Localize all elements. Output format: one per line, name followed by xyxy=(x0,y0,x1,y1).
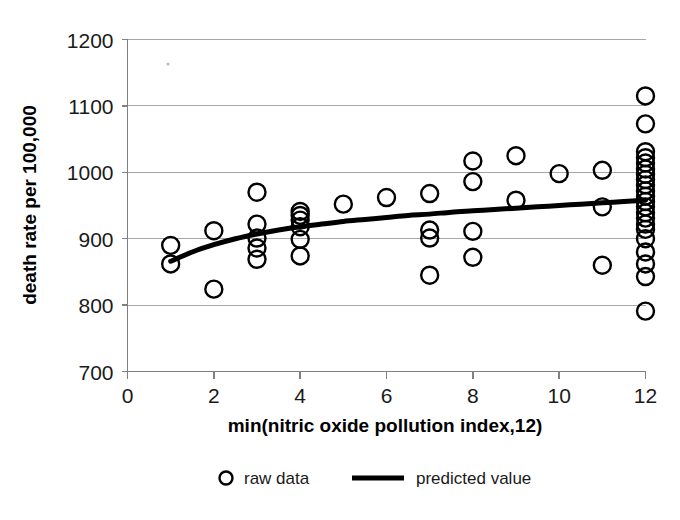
y-tick-label-900: 900 xyxy=(78,228,113,251)
data-point xyxy=(292,231,309,248)
data-point xyxy=(249,184,266,201)
data-point xyxy=(421,185,438,202)
legend-marker-raw-data xyxy=(220,472,233,485)
x-tick-label-10: 10 xyxy=(547,384,570,407)
data-point xyxy=(637,87,654,104)
scan-speck xyxy=(166,62,169,65)
data-point xyxy=(594,162,611,179)
data-point xyxy=(464,249,481,266)
data-point xyxy=(464,173,481,190)
data-point xyxy=(464,153,481,170)
data-point xyxy=(335,196,352,213)
data-point xyxy=(637,115,654,132)
y-axis-title: death rate per 100,000 xyxy=(19,105,40,305)
legend-label-predicted-value: predicted value xyxy=(416,469,531,488)
x-tick-labels-group: 024681012 xyxy=(122,384,658,407)
predicted-value-path xyxy=(171,200,646,261)
chart-legend: raw data predicted value xyxy=(220,469,532,488)
x-axis-title: min(nitric oxide pollution index,12) xyxy=(228,415,543,436)
data-point xyxy=(162,237,179,254)
y-tick-label-1200: 1200 xyxy=(67,29,114,52)
x-tick-label-4: 4 xyxy=(294,384,306,407)
x-tick-label-0: 0 xyxy=(122,384,134,407)
data-point xyxy=(162,255,179,272)
y-tick-label-1000: 1000 xyxy=(67,161,114,184)
x-tick-label-12: 12 xyxy=(634,384,657,407)
y-tick-labels-group: 700800900100011001200 xyxy=(67,29,114,384)
scatter-plot: 700800900100011001200 024681012 min(nitr… xyxy=(0,0,680,520)
data-point xyxy=(594,257,611,274)
data-point xyxy=(421,267,438,284)
data-point xyxy=(508,147,525,164)
y-tick-label-1100: 1100 xyxy=(68,95,113,118)
legend-label-raw-data: raw data xyxy=(244,469,310,488)
predicted-value-line xyxy=(171,200,646,261)
data-point xyxy=(464,223,481,240)
data-point xyxy=(378,189,395,206)
data-point xyxy=(205,222,222,239)
y-tick-label-700: 700 xyxy=(78,361,113,384)
tick-marks-group xyxy=(122,40,646,379)
y-tick-label-800: 800 xyxy=(78,294,113,317)
data-point xyxy=(637,268,654,285)
x-tick-label-2: 2 xyxy=(208,384,220,407)
chart-container: 700800900100011001200 024681012 min(nitr… xyxy=(0,0,680,520)
data-point xyxy=(551,165,568,182)
x-tick-label-8: 8 xyxy=(467,384,479,407)
data-point xyxy=(205,281,222,298)
data-point xyxy=(292,247,309,264)
x-tick-label-6: 6 xyxy=(381,384,393,407)
data-point xyxy=(249,251,266,268)
